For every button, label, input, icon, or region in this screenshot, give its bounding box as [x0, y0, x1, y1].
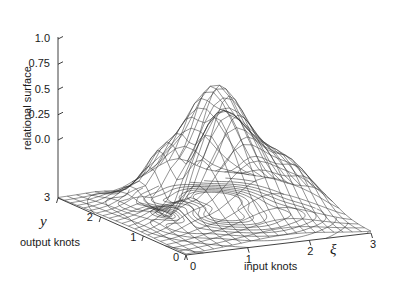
z-tick-label: 0.25: [16, 109, 50, 120]
y-axis-symbol: y: [40, 214, 47, 229]
x-tick-label: 2: [307, 246, 313, 257]
y-tick-label: 0: [173, 252, 179, 263]
y-axis-title: output knots: [20, 237, 80, 248]
y-tick-label: 2: [87, 212, 93, 223]
z-tick-label: 0.75: [16, 58, 50, 69]
axes-lines: [57, 37, 373, 261]
z-tick-label: 0.5: [16, 84, 50, 95]
z-tick-label: 1.0: [16, 33, 50, 44]
y-tick-label: 3: [44, 192, 50, 203]
surface-plot-figure: relational surface 1.0 0.75 0.5 0.25 0.0…: [0, 0, 394, 293]
y-tick-label: 1: [130, 232, 136, 243]
x-axis-symbol: ξ: [330, 242, 336, 257]
x-tick-label: 3: [370, 239, 376, 250]
x-tick-label: 0: [190, 261, 196, 272]
x-axis-title: input knots: [244, 261, 297, 272]
z-tick-label: 0.0: [16, 134, 50, 145]
x-tick-label: 1: [246, 254, 252, 265]
